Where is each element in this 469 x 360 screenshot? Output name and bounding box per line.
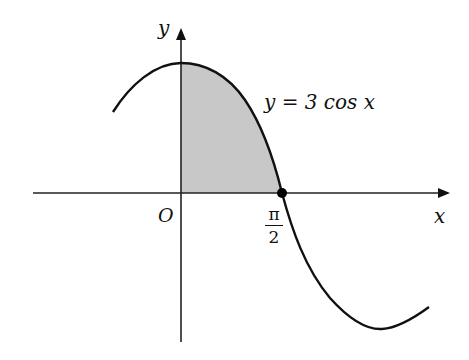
function-label: y = 3 cos x [264,92,375,112]
intercept-point [277,188,287,198]
x-axis-label: x [434,206,445,226]
graph-canvas [0,0,469,360]
function-label-text: y = 3 cos x [264,90,375,114]
pi-over-2-label: π 2 [263,204,285,247]
origin-label: O [158,206,174,225]
y-axis-label: y [158,18,169,38]
diagram: y x O y = 3 cos x π 2 [0,0,469,360]
fraction-denominator: 2 [263,227,285,247]
fraction-bar [265,225,283,226]
fraction-numerator: π [263,204,285,224]
